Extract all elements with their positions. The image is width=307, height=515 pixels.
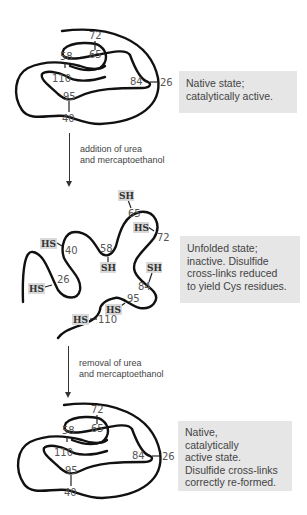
svg-text:72: 72 bbox=[91, 404, 104, 415]
refolded-state-caption: Native, catalytically active state. Disu… bbox=[178, 421, 292, 491]
svg-text:65: 65 bbox=[91, 423, 104, 434]
svg-text:26: 26 bbox=[162, 451, 175, 462]
svg-text:40: 40 bbox=[64, 487, 77, 498]
svg-text:95: 95 bbox=[65, 465, 78, 476]
svg-text:58: 58 bbox=[62, 425, 75, 436]
svg-text:110: 110 bbox=[54, 447, 73, 458]
svg-text:84: 84 bbox=[132, 450, 145, 461]
